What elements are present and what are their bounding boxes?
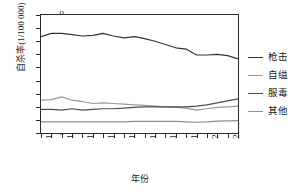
- legend-label: 服毒: [268, 88, 288, 98]
- legend-swatch-icon: [248, 111, 263, 112]
- legend-swatch-icon: [248, 93, 263, 94]
- x-tick-mark-1991: [103, 134, 104, 138]
- legend-swatch-icon: [248, 75, 263, 76]
- x-tick-mark-1993: [124, 134, 125, 138]
- series-line-枪击: [41, 33, 238, 59]
- y-axis-title: 自杀率(1/100 000): [14, 0, 28, 92]
- plot-area: [40, 14, 239, 134]
- legend-label: 其他: [268, 106, 288, 116]
- legend-item-枪击[interactable]: 枪击: [248, 50, 288, 64]
- x-tick-mark-1989: [82, 134, 83, 138]
- x-tick-mark-1995: [145, 134, 146, 138]
- chart-figure: 自杀率(1/100 000) 0123456789 19851987198919…: [0, 0, 305, 192]
- legend-item-其他[interactable]: 其他: [248, 104, 288, 118]
- x-tick-mark-1987: [62, 134, 63, 138]
- series-line-其他: [41, 121, 238, 123]
- x-tick-mark-2001: [207, 134, 208, 138]
- series-line-自缢: [41, 97, 238, 110]
- series-lines: [41, 15, 238, 133]
- x-tick-mark-1985: [41, 134, 42, 138]
- legend-item-服毒[interactable]: 服毒: [248, 86, 288, 100]
- chart-legend: 枪击自缢服毒其他: [248, 50, 288, 122]
- legend-label: 枪击: [268, 52, 288, 62]
- legend-item-自缢[interactable]: 自缢: [248, 68, 288, 82]
- x-tick-mark-1997: [165, 134, 166, 138]
- x-tick-mark-1999: [186, 134, 187, 138]
- legend-label: 自缢: [268, 70, 288, 80]
- x-tick-mark-2003: [228, 134, 229, 138]
- x-axis-title: 年份: [40, 172, 239, 185]
- legend-swatch-icon: [248, 57, 263, 58]
